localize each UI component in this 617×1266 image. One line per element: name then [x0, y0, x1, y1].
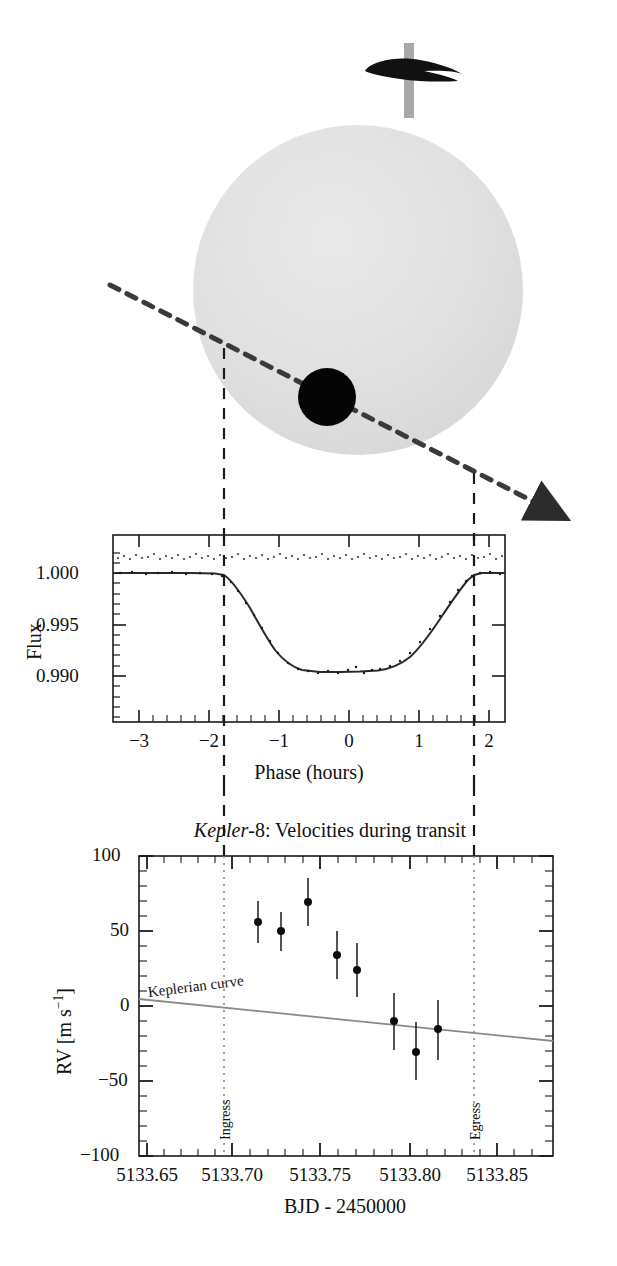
bjd-xtick-3: 5133.75 [289, 1165, 351, 1184]
rv-ytick-3: 0 [120, 995, 130, 1014]
flux-ytick-1: 1.000 [36, 563, 79, 582]
flux-ytick-3: 0.990 [36, 666, 79, 685]
flux-axis-title: Flux [24, 623, 44, 660]
rv-title-rest: -8: Velocities during transit [248, 819, 466, 841]
rv-point-5 [353, 943, 361, 997]
scientific-figure: 1.000 0.995 0.990 Flux −3 −2 −1 0 1 2 3 … [0, 0, 617, 1266]
flux-x-minor-ticks [153, 715, 475, 722]
phase-xtick-4: 0 [344, 731, 354, 750]
rv-title-italic-word: Kepler [194, 819, 248, 841]
rv-axis-title: RV [m s−1] [52, 988, 74, 1075]
light-curve-frame [113, 535, 505, 722]
flux-y-minor-ticks [113, 553, 120, 717]
planet-disk [298, 368, 356, 426]
rotation-direction-arrow [365, 58, 462, 81]
rv-point-8 [434, 1000, 442, 1060]
phase-xtick-2: −2 [199, 731, 219, 750]
bjd-xtick-2: 5133.70 [201, 1165, 263, 1184]
rv-point-4 [333, 931, 341, 979]
flux-x-major-ticks [139, 535, 489, 722]
light-curve-model [113, 573, 505, 672]
rv-ytick-1: 100 [92, 845, 121, 864]
bjd-axis-title: BJD - 2450000 [284, 1196, 406, 1216]
bjd-xtick-1: 5133.65 [116, 1165, 178, 1184]
rv-axis-title-prefix: RV [m s [53, 1009, 75, 1075]
light-curve-datapoints [119, 571, 501, 674]
rv-datapoints [254, 878, 442, 1080]
keplerian-curve-line [139, 999, 553, 1041]
rv-axis-title-exponent: −1 [51, 995, 66, 1009]
rv-ytick-5: −100 [80, 1145, 119, 1164]
rv-point-2 [277, 912, 285, 951]
bjd-xtick-4: 5133.80 [379, 1165, 441, 1184]
rv-plot-title: Kepler-8: Velocities during transit [194, 820, 466, 840]
ingress-annotation: Ingress [219, 1100, 233, 1140]
light-curve-plot [113, 535, 505, 785]
phase-axis-title: Phase (hours) [254, 762, 363, 782]
flux-y-major-ticks [113, 573, 505, 676]
rv-point-7 [412, 1022, 420, 1080]
bjd-xtick-5: 5133.85 [466, 1165, 528, 1184]
stellar-spin-axis [404, 43, 414, 118]
figure-canvas [0, 0, 617, 1266]
rv-ytick-4: −50 [98, 1070, 128, 1089]
rv-point-3 [304, 878, 312, 926]
rv-ytick-2: 50 [110, 920, 129, 939]
transit-geometry-diagram [110, 43, 540, 540]
star-surface-texture [193, 125, 523, 455]
rv-point-1 [254, 901, 262, 943]
rv-plot [139, 856, 553, 1156]
phase-xtick-3: −1 [269, 731, 289, 750]
phase-xtick-5: 1 [414, 731, 424, 750]
rv-axis-title-suffix: ] [53, 988, 75, 995]
phase-xtick-6: 2 [484, 731, 494, 750]
phase-xtick-1: −3 [129, 731, 149, 750]
rv-point-6 [390, 993, 398, 1050]
egress-annotation: Egress [469, 1103, 483, 1140]
residual-scatter [117, 553, 503, 560]
